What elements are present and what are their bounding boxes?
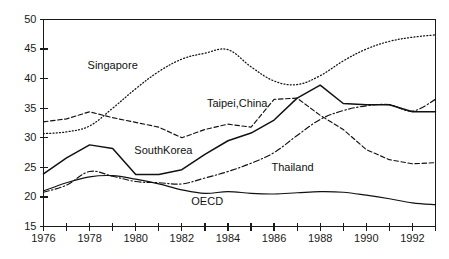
- y-tick-label: 50: [24, 13, 36, 25]
- series-label-thailand: Thailand: [271, 161, 313, 173]
- series-line-singapore: [44, 35, 436, 134]
- series-label-singapore: Singapore: [88, 59, 138, 71]
- y-tick-label: 35: [24, 102, 36, 114]
- series-label-southkorea: SouthKorea: [134, 144, 193, 156]
- y-tick-label: 25: [24, 161, 36, 173]
- x-tick-label: 1984: [216, 232, 240, 244]
- x-axis-tick-labels: 197619781980198219841986198819901992: [31, 232, 424, 244]
- x-tick-label: 1990: [354, 232, 378, 244]
- plot-axes: [44, 20, 436, 227]
- x-tick-label: 1992: [400, 232, 424, 244]
- chart-canvas: 1520253035404550 19761978198019821984198…: [0, 0, 449, 259]
- plot-border: [44, 20, 436, 227]
- y-tick-label: 45: [24, 42, 36, 54]
- series-line-thailand: [44, 99, 436, 192]
- x-tick-label: 1980: [123, 232, 147, 244]
- series-annotations: SingaporeTaipei,ChinaSouthKoreaThailandO…: [88, 59, 314, 208]
- y-axis-tick-labels: 1520253035404550: [24, 13, 36, 232]
- series-line-oecd: [44, 175, 436, 204]
- x-tick-label: 1978: [77, 232, 101, 244]
- y-tick-label: 20: [24, 190, 36, 202]
- series-label-oecd: OECD: [191, 195, 223, 207]
- y-tick-label: 15: [24, 220, 36, 232]
- y-tick-label: 30: [24, 131, 36, 143]
- x-tick-label: 1988: [308, 232, 332, 244]
- x-tick-label: 1982: [170, 232, 194, 244]
- x-tick-label: 1986: [262, 232, 286, 244]
- x-tick-label: 1976: [31, 232, 55, 244]
- plot-frame: [44, 20, 436, 227]
- line-chart: 1520253035404550 19761978198019821984198…: [0, 0, 449, 259]
- y-tick-label: 40: [24, 72, 36, 84]
- series-label-taipei-china: Taipei,China: [207, 97, 268, 109]
